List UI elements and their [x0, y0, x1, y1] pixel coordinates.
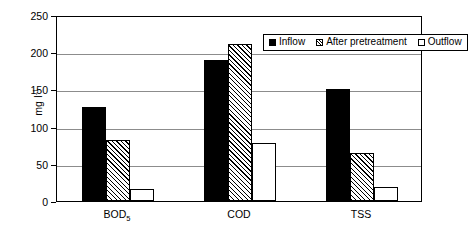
legend-swatch-icon	[269, 39, 276, 46]
chart-legend: InflowAfter pretreatmentOutflow	[263, 34, 468, 51]
y-axis-tick-label: 50	[22, 160, 48, 170]
y-axis-tick-label: 150	[22, 85, 48, 95]
x-axis-tick-label-base: TSS	[351, 208, 371, 220]
legend-swatch-icon	[316, 39, 323, 46]
legend-item: Outflow	[418, 37, 462, 47]
bar	[350, 153, 374, 201]
bar	[82, 107, 106, 201]
bar	[106, 140, 130, 201]
x-axis-tick-label-subscript: 5	[126, 214, 130, 223]
y-axis-tick-label: 0	[22, 197, 48, 207]
x-axis-tick-label-base: BOD	[104, 208, 127, 220]
x-axis-tick-label: BOD5	[56, 208, 178, 220]
x-axis-tick-labels: BOD5CODTSS	[56, 208, 422, 228]
y-axis-tick-mark	[51, 128, 56, 129]
y-axis-tick-mark	[51, 53, 56, 54]
legend-label: Outflow	[428, 37, 462, 47]
legend-item: After pretreatment	[316, 37, 407, 47]
bar	[204, 60, 228, 201]
bar	[326, 89, 350, 201]
plot-area: InflowAfter pretreatmentOutflow	[56, 16, 422, 202]
legend-swatch-icon	[418, 39, 425, 46]
bar	[252, 143, 276, 201]
y-axis-tick-mark	[51, 90, 56, 91]
x-axis-tick-label: COD	[178, 208, 300, 220]
y-axis-tick-label: 200	[22, 48, 48, 58]
y-axis-tick-mark	[51, 202, 56, 203]
y-axis-tick-labels: 050100150200250	[20, 0, 48, 236]
y-axis-tick-label: 100	[22, 123, 48, 133]
legend-label: After pretreatment	[326, 37, 407, 47]
bar	[130, 189, 154, 201]
bar	[228, 44, 252, 201]
x-axis-tick-label: TSS	[300, 208, 422, 220]
legend-item: Inflow	[269, 37, 305, 47]
y-axis-tick-label: 250	[22, 11, 48, 21]
y-axis-tick-mark	[51, 165, 56, 166]
bar	[374, 187, 398, 201]
x-axis-tick-label-base: COD	[227, 208, 250, 220]
y-axis-tick-mark	[51, 16, 56, 17]
legend-label: Inflow	[279, 37, 305, 47]
